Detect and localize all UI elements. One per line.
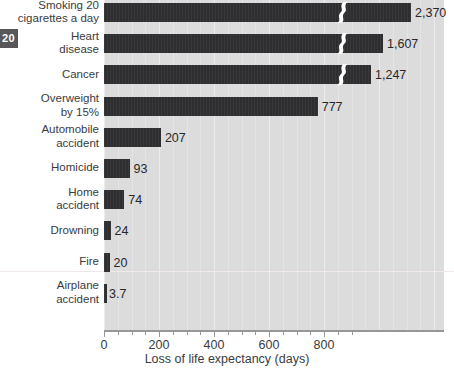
category-label: Drowning — [0, 224, 99, 238]
bar-chart: 2,3701,6071,247777207937424203.7 Smoking… — [0, 0, 454, 368]
bar — [104, 97, 318, 116]
x-tick-minor — [338, 331, 339, 335]
page-rule — [0, 271, 454, 272]
x-tick-major — [104, 331, 105, 337]
x-tick-minor — [297, 331, 298, 335]
bar-value-label: 93 — [134, 162, 148, 176]
x-tick-label: 800 — [314, 338, 335, 352]
category-label: Automobile accident — [0, 123, 99, 150]
x-tick-minor — [118, 331, 119, 335]
bar — [104, 34, 383, 53]
x-tick-minor — [310, 331, 311, 335]
x-tick-minor — [352, 331, 353, 335]
bar — [104, 3, 411, 22]
bar — [104, 221, 111, 240]
x-tick-minor — [228, 331, 229, 335]
bar — [104, 253, 110, 272]
x-tick-minor — [200, 331, 201, 335]
x-tick-minor — [145, 331, 146, 335]
bar-value-label: 1,607 — [387, 37, 418, 51]
x-axis-line — [104, 330, 444, 332]
x-tick-minor — [255, 331, 256, 335]
x-tick-major — [324, 331, 325, 337]
x-tick-minor — [132, 331, 133, 335]
bar-value-label: 207 — [165, 131, 186, 145]
x-axis-title: Loss of life expectancy (days) — [0, 352, 454, 366]
category-label: Cancer — [0, 68, 99, 82]
bar-value-label: 777 — [322, 100, 343, 114]
category-label: Airplane accident — [0, 279, 99, 306]
x-tick-minor — [173, 331, 174, 335]
x-tick-minor — [242, 331, 243, 335]
bar — [104, 190, 124, 209]
x-tick-label: 200 — [149, 338, 170, 352]
x-tick-major — [214, 331, 215, 337]
bar-value-label: 2,370 — [415, 6, 446, 20]
bar-value-label: 74 — [128, 193, 142, 207]
x-tick-minor — [187, 331, 188, 335]
x-tick-minor — [283, 331, 284, 335]
x-tick-label: 600 — [259, 338, 280, 352]
bar-value-label: 20 — [114, 256, 128, 270]
bar-value-label: 3.7 — [109, 287, 126, 301]
x-tick-label: 400 — [204, 338, 225, 352]
category-label: Smoking 20 cigarettes a day — [0, 0, 99, 26]
x-tick-label: 0 — [101, 338, 108, 352]
bar-value-label: 24 — [115, 224, 129, 238]
x-tick-major — [159, 331, 160, 337]
gridline — [434, 0, 435, 330]
category-label: Home accident — [0, 186, 99, 213]
category-label: Fire — [0, 255, 99, 269]
category-label: Overweight by 15% — [0, 92, 99, 119]
page-number-badge: 20 — [0, 29, 18, 48]
gridline — [420, 0, 421, 330]
bar — [104, 284, 107, 303]
bar-value-label: 1,247 — [375, 68, 406, 82]
bar — [104, 128, 161, 147]
x-tick-major — [269, 331, 270, 337]
bar — [104, 65, 371, 84]
category-label: Homicide — [0, 161, 99, 175]
bar — [104, 159, 130, 178]
